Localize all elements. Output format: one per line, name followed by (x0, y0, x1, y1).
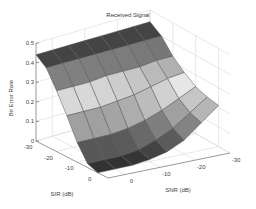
y-tick-label: 0 (130, 178, 134, 184)
y-tick-label: -10 (162, 171, 171, 177)
x-tick-label: -30 (24, 144, 33, 150)
x-tick-label: 0 (88, 176, 92, 182)
z-tick-label: 0.4 (26, 60, 35, 66)
x-axis-label: SIR (dB) (50, 191, 73, 197)
z-tick-label: 0.5 (26, 40, 35, 46)
x-tick-label: -20 (44, 155, 53, 161)
z-tick-label: 0.3 (26, 79, 35, 85)
surface-plot: 00.10.20.30.40.5-30-20-1000-10-20-30 Bit… (0, 0, 256, 209)
z-axis-label: Bit Error Rate (8, 79, 14, 116)
z-tick-label: 0.2 (26, 99, 35, 105)
y-tick-label: -20 (197, 164, 206, 170)
x-tick-label: -10 (65, 165, 74, 171)
y-tick-label: -30 (232, 157, 241, 163)
z-tick-label: 0.1 (26, 118, 35, 124)
y-axis-label: SNR (dB) (165, 187, 191, 193)
